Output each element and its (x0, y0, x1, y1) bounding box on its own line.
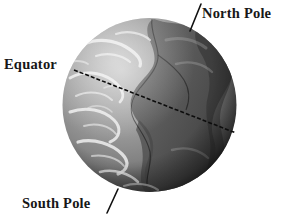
north-pole-label: North Pole (202, 6, 271, 21)
globe-illustration (0, 0, 282, 220)
south-pole-leader-line (107, 189, 118, 213)
equator-label: Equator (4, 57, 57, 72)
south-pole-label: South Pole (22, 196, 90, 211)
north-pole-leader-line (190, 4, 201, 31)
specular-highlight (63, 18, 237, 192)
earth-globe-diagram: North Pole Equator South Pole (0, 0, 282, 220)
